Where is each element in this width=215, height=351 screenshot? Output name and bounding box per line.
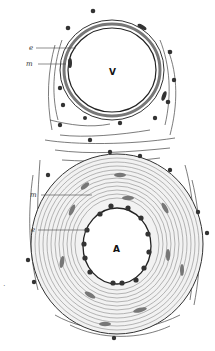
artery: A bbox=[31, 154, 203, 334]
label-vein-endothelium: e bbox=[29, 44, 33, 52]
label-artery-endothelium: e bbox=[31, 226, 35, 234]
stray-mark: · bbox=[3, 281, 6, 290]
artery-label: A bbox=[113, 244, 120, 254]
label-vein-media: m bbox=[26, 60, 33, 68]
vein-label: V bbox=[109, 67, 116, 77]
label-artery-media: m bbox=[30, 191, 37, 199]
histology-figure: V bbox=[0, 0, 215, 351]
vein: V bbox=[58, 9, 176, 126]
